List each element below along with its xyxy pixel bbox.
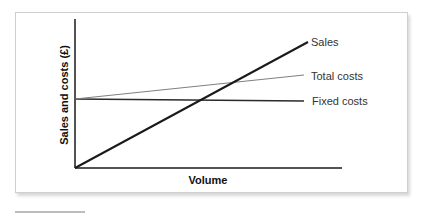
sales-line <box>75 42 308 168</box>
breakeven-chart: Sales Total costs Fixed costs Volume Sal… <box>0 0 426 213</box>
divider <box>15 211 85 213</box>
y-axis-label: Sales and costs (£) <box>58 45 70 145</box>
total-costs-line <box>75 75 304 99</box>
x-axis-label: Volume <box>189 174 228 186</box>
fixed-costs-label: Fixed costs <box>312 95 368 107</box>
total-costs-label: Total costs <box>311 70 363 82</box>
sales-label: Sales <box>311 36 339 48</box>
fixed-costs-line <box>75 99 304 101</box>
